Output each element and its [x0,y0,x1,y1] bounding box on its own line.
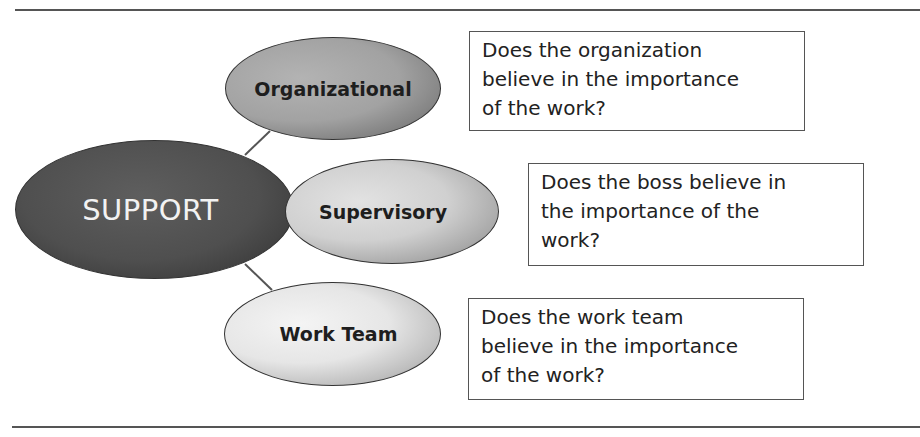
supervisory-node: Supervisory [285,159,499,264]
question-line: the importance of the [541,197,863,226]
bottom-divider [12,426,920,428]
question-line: Does the boss believe in [541,168,863,197]
supervisory-question-box: Does the boss believe in the importance … [528,163,864,266]
question-line: believe in the importance [481,332,803,361]
question-line: believe in the importance [482,65,804,94]
organizational-node: Organizational [225,37,441,140]
organizational-label: Organizational [254,78,411,100]
support-node: SUPPORT [15,140,294,279]
question-line: Does the work team [481,303,803,332]
question-line: of the work? [481,361,803,390]
work-team-label: Work Team [280,323,398,345]
question-line: of the work? [482,94,804,123]
work-team-question-box: Does the work team believe in the import… [468,298,804,400]
support-label: SUPPORT [82,193,219,227]
connector-organizational [245,131,270,155]
connector-workteam [245,264,272,290]
organizational-question-box: Does the organization believe in the imp… [469,31,805,131]
question-line: Does the organization [482,36,804,65]
supervisory-label: Supervisory [319,201,447,223]
work-team-node: Work Team [224,282,441,386]
question-line: work? [541,226,863,255]
